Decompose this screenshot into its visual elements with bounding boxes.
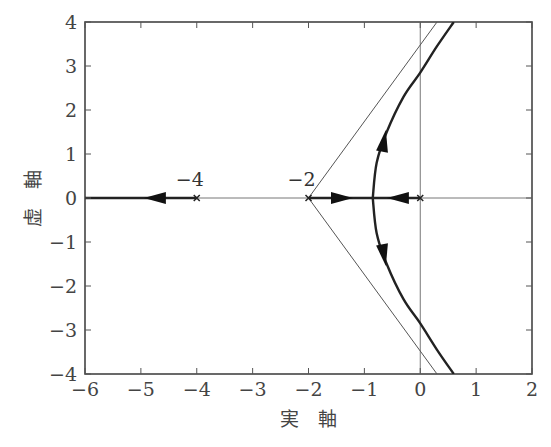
x-tick-label: 1 <box>470 378 482 400</box>
x-axis-title: 実 軸 <box>280 408 337 430</box>
y-tick-label: −2 <box>49 275 77 297</box>
x-tick-label: 2 <box>526 378 538 400</box>
x-tick-label: 0 <box>414 378 426 400</box>
y-tick-label: 3 <box>65 55 77 77</box>
x-tick-label: −5 <box>127 378 155 400</box>
x-tick-label: −4 <box>183 378 211 400</box>
asymptote-line <box>309 22 438 198</box>
y-tick-label: 0 <box>65 187 77 209</box>
locus-branch <box>373 198 454 374</box>
y-axis-title: 虚 軸 <box>22 170 44 227</box>
direction-arrow-icon <box>331 192 353 204</box>
direction-arrow-icon <box>387 192 409 204</box>
locus-branch <box>373 22 454 198</box>
direction-arrow-icon <box>376 243 392 267</box>
y-tick-label: −1 <box>49 231 77 253</box>
root-locus-chart: −2−4 −6−5−4−3−2−1012−4−3−2−101234 実 軸 虚 … <box>0 0 551 447</box>
pole-label: −2 <box>287 168 315 190</box>
direction-arrow-icon <box>144 192 166 204</box>
x-tick-label: −2 <box>294 378 322 400</box>
x-tick-label: −1 <box>350 378 378 400</box>
direction-arrow-icon <box>376 129 392 153</box>
y-tick-label: −3 <box>49 319 77 341</box>
pole-label: −4 <box>176 168 204 190</box>
plot-area: −2−4 <box>85 22 532 374</box>
asymptote-line <box>309 198 438 374</box>
y-tick-label: 4 <box>65 11 77 33</box>
y-tick-label: 2 <box>65 99 77 121</box>
axis-ticks: −6−5−4−3−2−1012−4−3−2−101234 <box>49 11 538 400</box>
y-tick-label: −4 <box>49 363 77 385</box>
y-tick-label: 1 <box>65 143 77 165</box>
x-tick-label: −3 <box>239 378 267 400</box>
